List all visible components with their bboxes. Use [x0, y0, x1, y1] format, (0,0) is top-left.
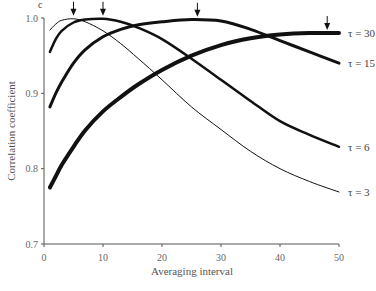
y-tick-label: 0.7	[26, 239, 39, 250]
x-axis-label: Averaging interval	[151, 265, 233, 277]
series-label: τ = 6	[348, 141, 370, 153]
peak-arrow-icon	[324, 23, 330, 30]
x-tick-label: 0	[42, 252, 47, 263]
x-tick-label: 20	[157, 252, 167, 263]
axes: 0.70.80.91.001020304050	[26, 13, 345, 264]
series-labels: τ = 3τ = 6τ = 15τ = 30	[348, 27, 376, 198]
x-tick-label: 50	[334, 252, 344, 263]
y-tick-label: 0.9	[26, 88, 39, 99]
series-line	[50, 33, 339, 188]
y-tick-label: 0.8	[26, 163, 39, 174]
series-label: τ = 15	[348, 57, 376, 69]
panel-label: c	[38, 0, 43, 10]
peak-arrow-icon	[71, 9, 77, 16]
series-line	[50, 19, 339, 147]
x-tick-label: 40	[275, 252, 285, 263]
peak-arrow-icon	[194, 10, 200, 17]
y-axis-label: Correlation coefficient	[5, 81, 17, 181]
x-tick-label: 30	[216, 252, 226, 263]
curves	[50, 19, 339, 192]
peak-arrow-icon	[100, 9, 106, 16]
peak-arrows	[71, 2, 331, 30]
x-tick-label: 10	[98, 252, 108, 263]
correlation-chart: c 0.70.80.91.001020304050 τ = 3τ = 6τ = …	[0, 0, 376, 291]
series-label: τ = 3	[348, 186, 370, 198]
y-tick-label: 1.0	[26, 13, 39, 24]
series-label: τ = 30	[348, 27, 376, 39]
